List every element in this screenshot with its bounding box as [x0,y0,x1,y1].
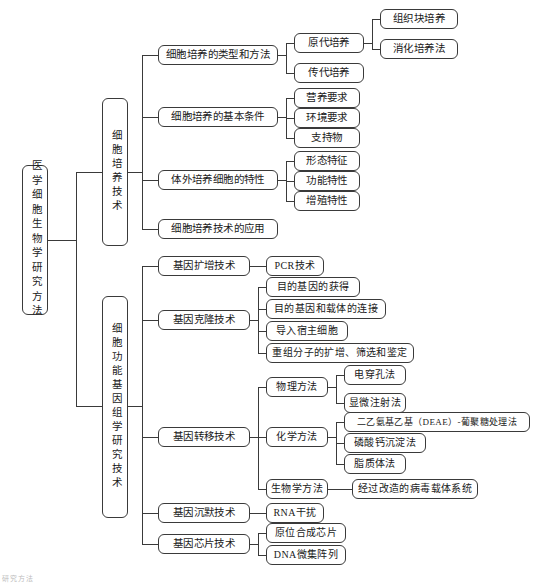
node-support-material[interactable]: 支持物 [294,128,360,148]
connector-root-trunk [48,240,76,241]
connector-branch2-child2 [142,320,158,321]
node-gene-transfer[interactable]: 基因转移技术 [158,427,250,447]
connector-branch2-child3 [142,437,158,438]
connector-silencing-rnai [250,513,266,514]
connector-branch2-child5 [142,544,158,545]
connector-biological-virus [328,489,352,490]
node-physical-method[interactable]: 物理方法 [266,377,328,397]
connector-physical-out [328,387,336,388]
connector-conditions-c2 [286,118,294,119]
node-host-cell-introduction[interactable]: 导入宿主细胞 [266,321,348,341]
node-biological-method[interactable]: 生物学方法 [266,479,328,499]
node-gene-amplification[interactable]: 基因扩增技术 [158,256,250,276]
node-environment-requirement[interactable]: 环境要求 [294,108,360,128]
connector-primary-tissue [372,19,380,20]
connector-branch2-child4 [142,513,158,514]
connector-conditions-c3 [286,138,294,139]
node-tissue-block-culture[interactable]: 组织块培养 [380,9,458,29]
connector-transfer-chemical [258,437,266,438]
connector-types-primary [286,43,294,44]
node-proliferation-traits[interactable]: 增殖特性 [294,191,360,211]
connector-cloning-c1 [258,287,266,288]
connector-branch1-spine [142,55,143,229]
node-deae-dextran-method[interactable]: 二乙氨基乙基（DEAE）-葡聚糖处理法 [344,412,530,432]
node-culture-applications[interactable]: 细胞培养技术的应用 [158,219,278,239]
connector-trunk-vertical [76,172,77,406]
root-node[interactable]: 医学细胞生物学研究方法 [22,165,48,315]
connector-physical-p1 [336,375,344,376]
node-pcr-technique[interactable]: PCR技术 [266,256,324,276]
connector-chip-spine [258,533,259,555]
node-culture-types-methods[interactable]: 细胞培养的类型和方法 [158,45,278,65]
connector-amplification-pcr [250,266,266,267]
connector-transfer-biological [258,489,266,490]
connector-chemical-c2 [336,443,344,444]
node-invitro-cell-traits[interactable]: 体外培养细胞的特性 [158,170,278,190]
connector-types-passage [286,73,294,74]
connector-branch1-out [128,172,142,173]
connector-physical-spine [336,375,337,403]
connector-chip-c2 [258,555,266,556]
connector-chemical-out [328,437,336,438]
connector-chip-out [250,544,258,545]
node-gene-vector-ligation[interactable]: 目的基因和载体的连接 [266,299,386,319]
figure-caption: 研究方法 [2,573,34,583]
connector-primary-out [364,43,372,44]
connector-branch2-spine [142,266,143,544]
node-rna-interference[interactable]: RNA干扰 [266,503,324,523]
connector-conditions-c1 [286,98,294,99]
connector-transfer-spine [258,387,259,489]
connector-traits-t1 [286,161,294,162]
node-functional-traits[interactable]: 功能特性 [294,171,360,191]
connector-trunk-branch1 [76,172,102,173]
connector-traits-t2 [286,181,294,182]
mindmap-canvas: 医学细胞生物学研究方法 细胞培养技术 细胞培养的类型和方法 细胞培养的基本条件 … [0,0,536,584]
connector-cloning-c3 [258,331,266,332]
connector-chemical-c1 [336,422,344,423]
connector-cloning-c4 [258,353,266,354]
node-gene-cloning[interactable]: 基因克隆技术 [158,310,250,330]
node-insitu-synthesis-chip[interactable]: 原位合成芯片 [266,523,346,543]
connector-trunk-branch2 [76,406,102,407]
node-nutrition-requirement[interactable]: 营养要求 [294,88,360,108]
node-passage-culture[interactable]: 传代培养 [294,63,364,83]
connector-branch1-child1 [142,55,158,56]
connector-chip-c1 [258,533,266,534]
connector-cloning-spine [258,287,259,353]
node-liposome-method[interactable]: 脂质体法 [344,454,406,474]
connector-physical-p2 [336,403,344,404]
node-digestion-culture[interactable]: 消化培养法 [380,39,458,59]
node-gene-silencing[interactable]: 基因沉默技术 [158,503,250,523]
node-chemical-method[interactable]: 化学方法 [266,427,328,447]
node-morphological-traits[interactable]: 形态特征 [294,151,360,171]
connector-branch1-child3 [142,180,158,181]
node-calcium-phosphate-precipitation[interactable]: 磷酸钙沉淀法 [344,433,426,453]
connector-cloning-out [250,320,258,321]
connector-cloning-c2 [258,309,266,310]
connector-traits-t3 [286,201,294,202]
connector-primary-digest [372,49,380,50]
node-dna-microarray[interactable]: DNA微集阵列 [266,545,346,565]
connector-types-spine [286,43,287,73]
node-recombinant-screening[interactable]: 重组分子的扩增、筛选和鉴定 [266,343,414,363]
connector-traits-out [278,180,286,181]
node-target-gene-acquisition[interactable]: 目的基因的获得 [266,277,360,297]
connector-transfer-out [250,437,258,438]
connector-transfer-physical [258,387,266,388]
connector-primary-spine [372,19,373,49]
connector-branch1-child4 [142,229,158,230]
connector-chemical-c3 [336,464,344,465]
connector-branch1-child2 [142,117,158,118]
connector-types-out [278,55,286,56]
node-gene-chip[interactable]: 基因芯片技术 [158,534,250,554]
node-modified-viral-vector-system[interactable]: 经过改造的病毒载体系统 [352,479,478,499]
connector-branch2-out [128,406,142,407]
connector-branch2-child1 [142,266,158,267]
connector-conditions-out [278,117,286,118]
branch-cell-culture[interactable]: 细胞培养技术 [102,98,128,246]
node-primary-culture[interactable]: 原代培养 [294,33,364,53]
node-microinjection[interactable]: 显微注射法 [344,393,406,413]
node-electroporation[interactable]: 电穿孔法 [344,365,406,385]
branch-functional-genomics[interactable]: 细胞功能基因组学研究技术 [102,296,128,518]
node-culture-basic-conditions[interactable]: 细胞培养的基本条件 [158,107,278,127]
